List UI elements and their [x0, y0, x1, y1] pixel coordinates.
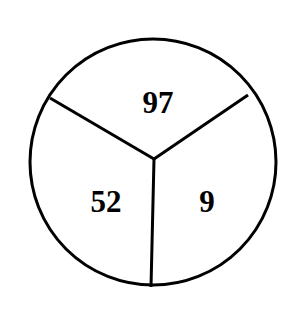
divider-bottom — [151, 159, 154, 287]
sector-top-value: 97 — [143, 85, 174, 120]
circle-diagram: 97 52 9 — [0, 0, 281, 318]
divider-upper-left — [50, 98, 154, 159]
sector-bottom-right-value: 9 — [199, 184, 215, 219]
sector-bottom-left-value: 52 — [91, 184, 122, 219]
